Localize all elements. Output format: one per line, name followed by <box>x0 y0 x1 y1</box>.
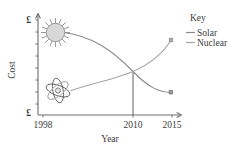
legend-item-solar[interactable]: Solar <box>186 28 218 38</box>
cost-vs-year-line-chart: £ £ Cost 1998 2010 2015 Year <box>0 0 244 146</box>
y-axis-bottom-currency-label: £ <box>26 108 31 118</box>
series-solar <box>64 33 173 95</box>
x-axis-title: Year <box>101 134 119 144</box>
x-tick-label-2015: 2015 <box>163 120 182 130</box>
series-nuclear <box>71 38 173 90</box>
sun-icon <box>41 18 70 47</box>
x-tick-label-2010: 2010 <box>124 120 143 130</box>
x-axis: 1998 2010 2015 Year <box>34 113 182 144</box>
legend-label-solar: Solar <box>197 28 218 38</box>
legend-title: Key <box>190 13 206 23</box>
y-axis: £ £ Cost <box>7 14 40 118</box>
solar-curve <box>64 33 172 93</box>
atom-icon <box>44 77 71 103</box>
legend: Key Solar Nuclear <box>186 13 228 48</box>
nuclear-curve <box>71 40 171 91</box>
nuclear-endpoint-marker <box>169 38 172 41</box>
x-tick-label-1998: 1998 <box>34 120 53 130</box>
y-axis-title: Cost <box>7 61 17 79</box>
solar-endpoint-marker <box>169 91 172 94</box>
y-axis-top-currency-label: £ <box>26 15 31 25</box>
legend-label-nuclear: Nuclear <box>197 38 228 48</box>
legend-item-nuclear[interactable]: Nuclear <box>186 38 228 48</box>
